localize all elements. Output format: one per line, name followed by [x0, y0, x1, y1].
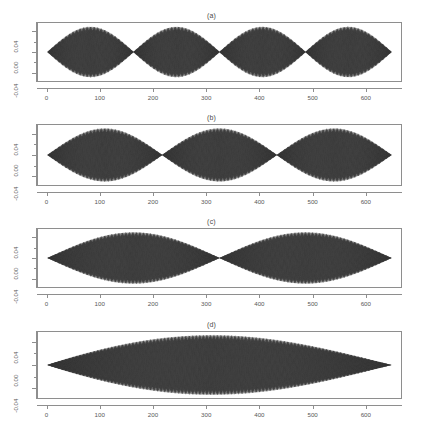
x-axis-tick [259, 294, 260, 298]
figure-root: (a) -0.040.000.04 0100200300400500600 (b… [0, 0, 423, 426]
x-axis-tick [100, 88, 101, 92]
panel-d-canvas [38, 332, 401, 398]
y-axis-tick [32, 134, 37, 135]
panel-a-xaxis: 0100200300400500600 [37, 88, 402, 106]
cropped-header-text [0, 0, 423, 5]
x-axis-tick [47, 192, 48, 196]
y-axis-tick-label: 0.04 [12, 351, 19, 363]
x-axis-tick-label: 0 [45, 300, 48, 307]
y-axis-minor-tick [34, 353, 37, 354]
y-axis-minor-tick [34, 268, 37, 269]
x-axis-tick [47, 88, 48, 92]
panel-a-title: (a) [0, 10, 423, 21]
x-axis-tick-label: 300 [201, 411, 211, 418]
y-axis-tick [32, 52, 37, 53]
x-axis-tick-label: 200 [148, 94, 158, 101]
panel-d-xaxis: 0100200300400500600 [37, 405, 402, 423]
panel-c-canvas [38, 229, 401, 287]
x-axis-tick-label: 0 [45, 198, 48, 205]
x-axis-tick-label: 400 [254, 198, 264, 205]
x-axis-tick-label: 0 [45, 411, 48, 418]
x-axis-tick [259, 88, 260, 92]
x-axis-tick-label: 600 [361, 300, 371, 307]
x-axis-tick [153, 405, 154, 409]
x-axis-tick [206, 88, 207, 92]
x-axis-tick-label: 100 [95, 300, 105, 307]
x-axis-tick-label: 500 [307, 198, 317, 205]
x-axis-tick-label: 200 [148, 300, 158, 307]
panel-c: (c) -0.040.000.04 0100200300400500600 [0, 216, 423, 316]
y-axis-tick [32, 155, 37, 156]
x-axis-tick-label: 100 [95, 94, 105, 101]
x-axis-tick [313, 192, 314, 196]
x-axis-tick [206, 405, 207, 409]
y-axis-minor-tick [34, 377, 37, 378]
y-axis-minor-tick [34, 144, 37, 145]
y-axis-minor-tick [34, 166, 37, 167]
panel-c-plot-area [37, 228, 402, 288]
x-axis-tick-label: 400 [254, 94, 264, 101]
x-axis-tick-label: 600 [361, 94, 371, 101]
x-axis-tick-label: 200 [148, 411, 158, 418]
y-axis-tick-label: -0.04 [12, 83, 19, 97]
x-axis-tick [313, 88, 314, 92]
x-axis-line [37, 405, 402, 406]
y-axis-tick-label: 0.00 [12, 62, 19, 74]
y-axis-tick [32, 237, 37, 238]
panel-b-xaxis: 0100200300400500600 [37, 192, 402, 210]
x-axis-tick [100, 192, 101, 196]
x-axis-tick-label: 600 [361, 411, 371, 418]
y-axis-tick-label: 0.04 [12, 41, 19, 53]
panel-a-plot-area [37, 22, 402, 82]
x-axis-tick [206, 294, 207, 298]
x-axis-tick [153, 192, 154, 196]
x-axis-tick [47, 294, 48, 298]
y-axis-tick-label: 0.00 [12, 165, 19, 177]
y-axis-tick-label: 0.04 [12, 143, 19, 155]
y-axis-tick-label: 0.00 [12, 375, 19, 387]
y-axis-tick [32, 176, 37, 177]
panel-d-plot-area [37, 331, 402, 399]
y-axis-tick-label: -0.04 [12, 187, 19, 201]
y-axis-tick [32, 279, 37, 280]
y-axis-tick [32, 388, 37, 389]
x-axis-tick [47, 405, 48, 409]
y-axis-tick [32, 258, 37, 259]
x-axis-tick-label: 400 [254, 411, 264, 418]
x-axis-line [37, 192, 402, 193]
y-axis-tick [32, 342, 37, 343]
x-axis-tick [259, 192, 260, 196]
panel-d: (d) -0.040.000.04 0100200300400500600 [0, 319, 423, 426]
y-axis-tick [32, 31, 37, 32]
y-axis-minor-tick [34, 248, 37, 249]
panel-b-title: (b) [0, 112, 423, 123]
y-axis-tick [32, 365, 37, 366]
panel-d-title: (d) [0, 319, 423, 330]
x-axis-tick-label: 500 [307, 411, 317, 418]
y-axis-tick-label: 0.04 [12, 247, 19, 259]
panel-a: (a) -0.040.000.04 0100200300400500600 [0, 10, 423, 110]
x-axis-tick-label: 0 [45, 94, 48, 101]
x-axis-tick-label: 600 [361, 198, 371, 205]
x-axis-tick-label: 100 [95, 198, 105, 205]
x-axis-tick [366, 405, 367, 409]
x-axis-tick [366, 88, 367, 92]
x-axis-tick-label: 500 [307, 94, 317, 101]
x-axis-tick [100, 294, 101, 298]
y-axis-tick-label: -0.04 [12, 399, 19, 413]
y-axis-minor-tick [34, 62, 37, 63]
x-axis-tick-label: 400 [254, 300, 264, 307]
x-axis-line [37, 88, 402, 89]
x-axis-tick-label: 500 [307, 300, 317, 307]
panel-b: (b) -0.040.000.04 0100200300400500600 [0, 112, 423, 214]
x-axis-tick-label: 100 [95, 411, 105, 418]
y-axis-minor-tick [34, 42, 37, 43]
x-axis-line [37, 294, 402, 295]
y-axis-tick [32, 73, 37, 74]
x-axis-tick [153, 88, 154, 92]
x-axis-tick [366, 294, 367, 298]
y-axis-tick-label: -0.04 [12, 289, 19, 303]
x-axis-tick [153, 294, 154, 298]
x-axis-tick-label: 300 [201, 198, 211, 205]
x-axis-tick-label: 200 [148, 198, 158, 205]
